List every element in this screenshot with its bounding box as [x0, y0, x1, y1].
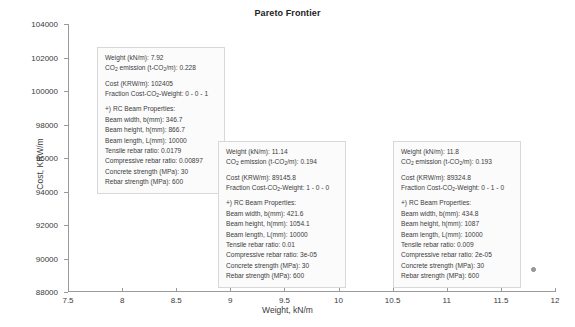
pareto-frontier-chart: Pareto Frontier Cost, KRW/m Weight, kN/m… — [0, 0, 575, 327]
tooltip-concrete-strength: Concrete strength (MPa): 30 — [401, 261, 514, 271]
y-axis-tick: 98000 — [64, 125, 68, 126]
tooltip-tensile-rebar-ratio: Tensile rebar ratio: 0.009 — [401, 240, 514, 250]
x-axis-tick-label: 11.5 — [493, 296, 508, 305]
x-axis-tick-label: 8.5 — [171, 296, 182, 305]
tooltip-section-header: +) RC Beam Properties: — [226, 198, 339, 208]
tooltip-beam-width: Beam width, b(mm): 421.6 — [226, 209, 339, 219]
tooltip-point-1[interactable]: Weight (kN/m): 7.92 CO2 emission (t-CO2/… — [97, 47, 225, 194]
x-axis-tick: 10.5 — [393, 288, 394, 292]
y-axis-tick: 104000 — [64, 24, 68, 25]
y-axis-tick: 88000 — [64, 292, 68, 293]
y-axis-tick: 100000 — [64, 91, 68, 92]
y-axis-line — [68, 24, 69, 292]
tooltip-weight: Weight (kN/m): 7.92 — [105, 53, 218, 63]
x-axis-tick: 7.5 — [68, 288, 69, 292]
y-axis-tick-label: 104000 — [31, 20, 58, 29]
data-point[interactable] — [531, 267, 536, 272]
x-axis-tick: 12 — [555, 288, 556, 292]
tooltip-concrete-strength: Concrete strength (MPa): 30 — [105, 167, 218, 177]
x-axis-tick-label: 12 — [551, 296, 560, 305]
x-axis-tick: 9 — [230, 288, 231, 292]
tooltip-beam-width: Beam width, b(mm): 346.7 — [105, 115, 218, 125]
tooltip-compressive-rebar-ratio: Compressive rebar ratio: 3e-05 — [226, 250, 339, 260]
y-axis-tick-label: 94000 — [36, 187, 58, 196]
tooltip-beam-height: Beam height, h(mm): 866.7 — [105, 125, 218, 135]
y-axis-tick-label: 102000 — [31, 53, 58, 62]
x-axis-tick: 8.5 — [176, 288, 177, 292]
y-axis-tick-label: 92000 — [36, 221, 58, 230]
tooltip-beam-height: Beam height, h(mm): 1087 — [401, 219, 514, 229]
x-axis-tick-label: 9.5 — [279, 296, 290, 305]
tooltip-beam-width: Beam width, b(mm): 434.8 — [401, 209, 514, 219]
x-axis-tick-label: 11 — [443, 296, 451, 305]
tooltip-rebar-strength: Rebar strength (MPa): 600 — [226, 271, 339, 281]
x-axis-tick-label: 10 — [334, 296, 343, 305]
y-axis-tick-label: 90000 — [36, 254, 58, 263]
tooltip-concrete-strength: Concrete strength (MPa): 30 — [226, 261, 339, 271]
x-axis-tick: 10 — [339, 288, 340, 292]
tooltip-beam-length: Beam length, L(mm): 10000 — [401, 230, 514, 240]
page-title: Pareto Frontier — [0, 8, 575, 18]
tooltip-section-header: +) RC Beam Properties: — [401, 198, 514, 208]
x-axis-tick: 8 — [122, 288, 123, 292]
y-axis-tick-label: 98000 — [36, 120, 58, 129]
y-axis-tick: 94000 — [64, 192, 68, 193]
tooltip-rebar-strength: Rebar strength (MPa): 600 — [401, 271, 514, 281]
y-axis-label: Cost, KRW/m — [35, 138, 45, 189]
x-axis-tick-label: 10.5 — [385, 296, 401, 305]
tooltip-beam-length: Beam length, L(mm): 10000 — [105, 136, 218, 146]
tooltip-tensile-rebar-ratio: Tensile rebar ratio: 0.0179 — [105, 146, 218, 156]
tooltip-weight: Weight (kN/m): 11.8 — [401, 147, 514, 157]
y-axis-tick: 92000 — [64, 225, 68, 226]
tooltip-co2-emission: CO2 emission (t-CO2/m): 0.194 — [226, 157, 339, 168]
x-axis-tick-label: 9 — [228, 296, 232, 305]
tooltip-fraction: Fraction Cost-CO2-Weight: 0 - 1 - 0 — [401, 183, 514, 194]
y-axis-tick-label: 96000 — [36, 154, 58, 163]
tooltip-section-header: +) RC Beam Properties: — [105, 104, 218, 114]
tooltip-point-2[interactable]: Weight (kN/m): 11.14 CO2 emission (t-CO2… — [218, 141, 346, 288]
tooltip-co2-emission: CO2 emission (t-CO2/m): 0.193 — [401, 157, 514, 168]
tooltip-compressive-rebar-ratio: Compressive rebar ratio: 0.00897 — [105, 156, 218, 166]
y-axis-tick: 96000 — [64, 158, 68, 159]
tooltip-cost: Cost (KRW/m): 89145.8 — [226, 173, 339, 183]
tooltip-compressive-rebar-ratio: Compressive rebar ratio: 2e-05 — [401, 250, 514, 260]
tooltip-co2-emission: CO2 emission (t-CO2/m): 0.228 — [105, 63, 218, 74]
tooltip-beam-length: Beam length, L(mm): 10000 — [226, 230, 339, 240]
x-axis-tick: 11.5 — [501, 288, 502, 292]
tooltip-cost: Cost (KRW/m): 102405 — [105, 79, 218, 89]
x-axis-tick-label: 7.5 — [62, 296, 73, 305]
tooltip-rebar-strength: Rebar strength (MPa): 600 — [105, 177, 218, 187]
y-axis-tick-label: 100000 — [31, 87, 58, 96]
y-axis-tick: 102000 — [64, 58, 68, 59]
x-axis-tick-label: 8 — [120, 296, 124, 305]
tooltip-tensile-rebar-ratio: Tensile rebar ratio: 0.01 — [226, 240, 339, 250]
y-axis-tick-label: 88000 — [36, 288, 58, 297]
tooltip-fraction: Fraction Cost-CO2-Weight: 1 - 0 - 0 — [226, 183, 339, 194]
x-axis-tick: 9.5 — [284, 288, 285, 292]
tooltip-beam-height: Beam height, h(mm): 1054.1 — [226, 219, 339, 229]
y-axis-tick: 90000 — [64, 259, 68, 260]
tooltip-point-3[interactable]: Weight (kN/m): 11.8 CO2 emission (t-CO2/… — [393, 141, 521, 288]
x-axis-line — [68, 291, 555, 292]
x-axis-label: Weight, kN/m — [0, 305, 575, 315]
x-axis-tick: 11 — [447, 288, 448, 292]
tooltip-weight: Weight (kN/m): 11.14 — [226, 147, 339, 157]
tooltip-cost: Cost (KRW/m): 89324.8 — [401, 173, 514, 183]
tooltip-fraction: Fraction Cost-CO2-Weight: 0 - 0 - 1 — [105, 89, 218, 100]
